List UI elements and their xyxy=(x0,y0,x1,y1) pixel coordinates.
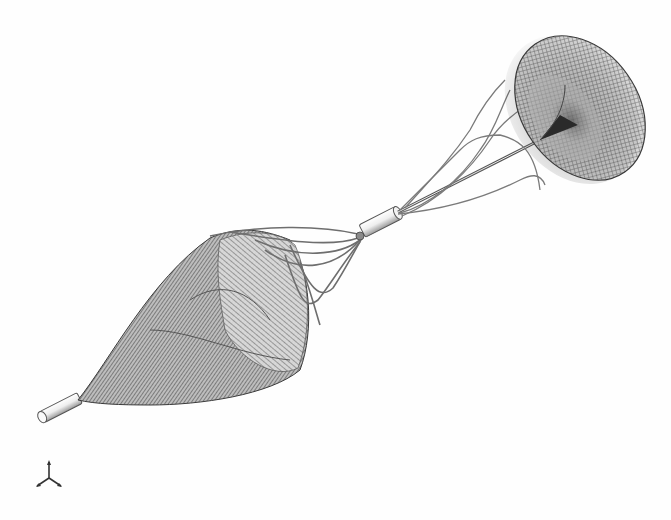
connector-tube[interactable] xyxy=(356,205,404,240)
toroidal-disc-mesh[interactable] xyxy=(477,10,671,210)
axis-triad-icon xyxy=(32,458,66,492)
cad-viewport[interactable]: Filter device with conical mesh basket, … xyxy=(0,0,671,520)
shaft xyxy=(398,140,540,212)
model-render[interactable] xyxy=(0,0,671,520)
distal-tip-tube[interactable] xyxy=(36,393,82,425)
